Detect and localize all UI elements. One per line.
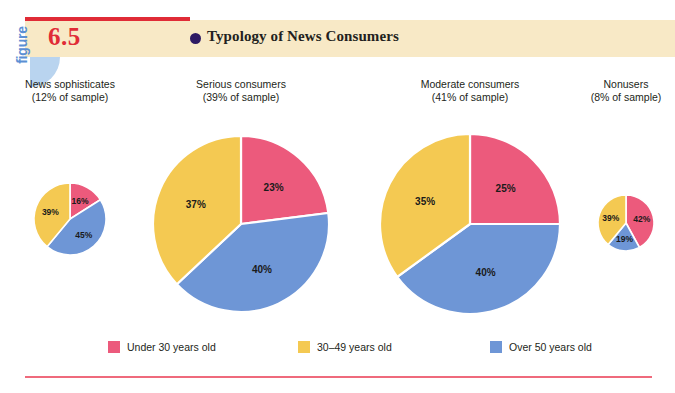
legend-label: Over 50 years old bbox=[509, 341, 592, 353]
figure-number: 6.5 bbox=[48, 23, 81, 51]
group-name: Serious consumers bbox=[161, 78, 321, 91]
slice-value-label: 37% bbox=[186, 199, 206, 210]
slice-value-label: 19% bbox=[616, 234, 633, 244]
group-label-4: Nonusers(8% of sample) bbox=[566, 78, 675, 104]
legend-label: Under 30 years old bbox=[127, 341, 216, 353]
group-name: Moderate consumers bbox=[385, 78, 555, 91]
group-name: Nonusers bbox=[566, 78, 675, 91]
slice-value-label: 45% bbox=[75, 230, 92, 240]
pie-slice-under-30-years-old bbox=[470, 134, 560, 224]
slice-value-label: 23% bbox=[264, 182, 284, 193]
bottom-pink-rule bbox=[25, 376, 652, 378]
group-label-2: Serious consumers(39% of sample) bbox=[161, 78, 321, 104]
legend-swatch-icon bbox=[108, 341, 120, 353]
group-name: News sophisticates bbox=[0, 78, 140, 91]
group-share: (8% of sample) bbox=[566, 91, 675, 104]
legend: Under 30 years old30–49 years oldOver 50… bbox=[108, 341, 568, 357]
slice-value-label: 40% bbox=[476, 266, 496, 277]
legend-item-under30[interactable]: Under 30 years old bbox=[108, 341, 216, 353]
legend-item-age3049[interactable]: 30–49 years old bbox=[298, 341, 392, 353]
legend-item-over50[interactable]: Over 50 years old bbox=[490, 341, 592, 353]
pie-chart-4: 42%19%39% bbox=[592, 189, 660, 257]
top-red-rule bbox=[25, 17, 190, 21]
figure-tab: figure bbox=[12, 20, 34, 72]
pie-chart-3: 25%40%35% bbox=[374, 128, 566, 320]
legend-label: 30–49 years old bbox=[317, 341, 392, 353]
pie-chart-2: 23%40%37% bbox=[147, 130, 335, 318]
slice-value-label: 35% bbox=[415, 196, 435, 207]
group-share: (39% of sample) bbox=[161, 91, 321, 104]
pie-chart-1: 16%45%39% bbox=[28, 177, 112, 261]
chart-title: Typology of News Consumers bbox=[207, 28, 399, 45]
legend-swatch-icon bbox=[490, 341, 502, 353]
figure-word-label: figure bbox=[14, 17, 32, 73]
slice-value-label: 39% bbox=[602, 213, 619, 223]
pie-slice-under-30-years-old bbox=[241, 136, 328, 224]
slice-value-label: 42% bbox=[633, 214, 650, 224]
bullet-icon bbox=[190, 33, 201, 44]
slice-value-label: 25% bbox=[496, 183, 516, 194]
group-label-1: News sophisticates(12% of sample) bbox=[0, 78, 140, 104]
legend-swatch-icon bbox=[298, 341, 310, 353]
group-share: (12% of sample) bbox=[0, 91, 140, 104]
slice-value-label: 16% bbox=[72, 196, 89, 206]
group-label-3: Moderate consumers(41% of sample) bbox=[385, 78, 555, 104]
slice-value-label: 39% bbox=[42, 207, 59, 217]
group-share: (41% of sample) bbox=[385, 91, 555, 104]
slice-value-label: 40% bbox=[252, 263, 272, 274]
